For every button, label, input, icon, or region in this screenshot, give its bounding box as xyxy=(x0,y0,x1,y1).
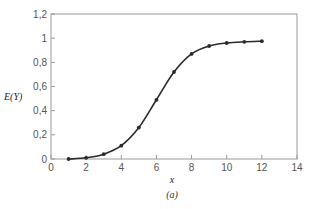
y-axis: 00,20,40,60,811,2 xyxy=(33,9,55,165)
data-point-marker xyxy=(137,126,141,130)
data-point-marker xyxy=(84,156,88,160)
x-tick-label: 4 xyxy=(119,162,125,173)
figure-caption: (a) xyxy=(166,189,178,201)
chart: 00,20,40,60,811,2 02468101214 E(Y) x (a) xyxy=(0,0,310,209)
x-tick-label: 2 xyxy=(83,162,89,173)
x-axis-title: x xyxy=(169,174,175,185)
plot-frame xyxy=(51,14,297,159)
x-tick-label: 0 xyxy=(48,162,54,173)
y-tick-label: 1 xyxy=(41,33,47,44)
data-point-marker xyxy=(119,144,123,148)
x-tick-label: 12 xyxy=(256,162,268,173)
y-tick-label: 0,8 xyxy=(33,57,47,68)
data-point-marker xyxy=(242,40,246,44)
y-tick-label: 0,2 xyxy=(33,129,47,140)
x-tick-label: 8 xyxy=(189,162,195,173)
y-tick-label: 0,4 xyxy=(33,105,47,116)
data-point-marker xyxy=(225,41,229,45)
x-tick-label: 6 xyxy=(154,162,160,173)
y-axis-title: E(Y) xyxy=(3,91,23,103)
data-point-marker xyxy=(155,98,159,102)
data-point-marker xyxy=(260,39,264,43)
y-tick-label: 0 xyxy=(41,154,47,165)
y-tick-label: 0,6 xyxy=(33,81,47,92)
y-tick-label: 1,2 xyxy=(33,9,47,20)
data-point-marker xyxy=(67,157,71,161)
data-point-marker xyxy=(207,44,211,48)
x-tick-label: 10 xyxy=(221,162,233,173)
data-point-marker xyxy=(102,152,106,156)
x-tick-label: 14 xyxy=(291,162,303,173)
data-point-marker xyxy=(172,70,176,74)
series-line xyxy=(69,41,262,159)
data-series xyxy=(67,39,264,161)
plot-border xyxy=(51,14,297,159)
data-point-marker xyxy=(190,52,194,56)
